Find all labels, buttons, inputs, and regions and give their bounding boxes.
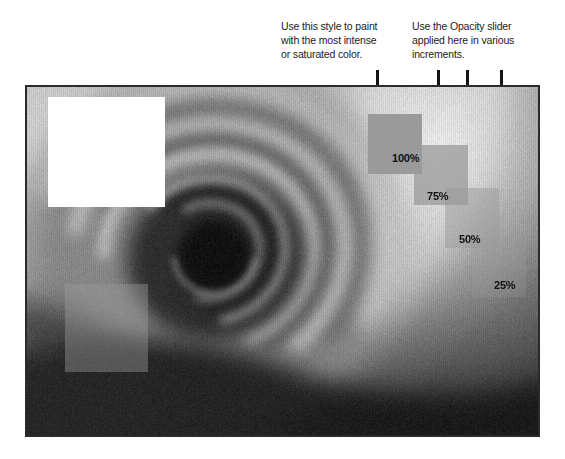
gray-paint-square xyxy=(65,284,148,372)
opacity-label-25: 25% xyxy=(494,279,515,291)
opacity-label-50: 50% xyxy=(459,233,480,245)
opacity-label-75: 75% xyxy=(427,190,448,202)
callout-text-opacity-slider: Use the Opacity sliderapplied here in va… xyxy=(412,19,522,61)
white-paint-square xyxy=(48,97,165,207)
opacity-label-100: 100% xyxy=(392,152,419,164)
callout-text-intense-color: Use this style to paintwith the most int… xyxy=(281,19,397,61)
rose-photograph-frame xyxy=(25,85,540,437)
